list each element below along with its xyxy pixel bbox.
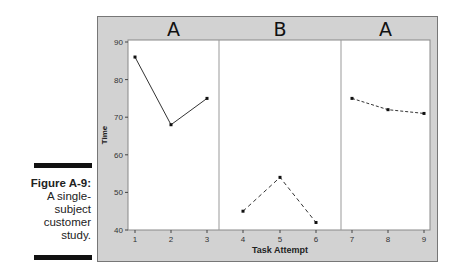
x-tick-label: 1 <box>133 235 138 244</box>
y-tick-label: 50 <box>114 188 123 197</box>
data-point <box>387 108 390 111</box>
data-point <box>279 176 282 179</box>
y-tick-label: 90 <box>114 38 123 47</box>
x-tick-label: 7 <box>350 235 355 244</box>
panel-label: A <box>379 18 392 40</box>
data-point <box>134 56 137 59</box>
plot-area <box>128 40 430 230</box>
data-point <box>242 210 245 213</box>
panel-label: A <box>167 18 180 40</box>
x-axis-label: Task Attempt <box>252 245 308 255</box>
y-axis-label: Time <box>100 125 109 144</box>
line-chart: ABA405060708090123456789Task AttemptTime <box>0 0 459 275</box>
x-tick-label: 9 <box>422 235 427 244</box>
data-point <box>315 221 318 224</box>
x-tick-label: 3 <box>205 235 210 244</box>
x-tick-label: 4 <box>241 235 246 244</box>
data-point <box>423 112 426 115</box>
data-point <box>351 97 354 100</box>
x-tick-label: 2 <box>169 235 174 244</box>
y-tick-label: 40 <box>114 226 123 235</box>
y-tick-label: 70 <box>114 113 123 122</box>
y-tick-label: 80 <box>114 76 123 85</box>
x-tick-label: 5 <box>278 235 283 244</box>
panel-label: B <box>273 18 286 40</box>
data-point <box>206 97 209 100</box>
x-tick-label: 6 <box>314 235 319 244</box>
data-point <box>170 123 173 126</box>
y-tick-label: 60 <box>114 151 123 160</box>
x-tick-label: 8 <box>386 235 391 244</box>
